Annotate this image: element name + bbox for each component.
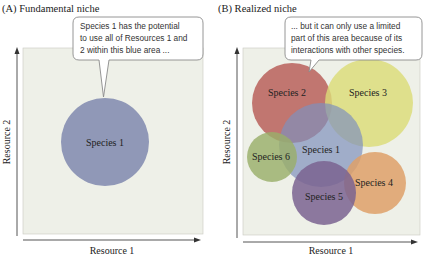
x-axis-arrow-icon [411, 240, 418, 245]
panel-a-y-axis [15, 47, 20, 236]
niche-figure: (A) Fundamental niche Species 1 Species … [0, 0, 424, 256]
panel-b-title: (B) Realized niche [218, 3, 297, 15]
panel-a-y-label: Resource 2 [1, 120, 12, 165]
species-1-label: Species 1 [86, 137, 124, 148]
callout-line-3: interactions with other species. [291, 45, 404, 55]
species-2-label: Species 2 [268, 87, 306, 98]
panel-b-x-label: Resource 1 [309, 245, 354, 256]
callout-line-1: Species 1 has the potential [80, 21, 180, 31]
panel-a: (A) Fundamental niche Species 1 Species … [1, 3, 203, 256]
panel-b-y-axis [235, 47, 240, 238]
species-6-label: Species 6 [252, 151, 290, 162]
panel-b-x-axis [243, 240, 418, 245]
species-3-label: Species 3 [349, 87, 387, 98]
callout-line-2: part of this area because of its [291, 33, 402, 43]
callout-line-2: to use all of Resources 1 and [80, 33, 188, 43]
panel-a-title: (A) Fundamental niche [2, 3, 100, 15]
panel-a-species-1: Species 1 [61, 98, 149, 186]
panel-a-x-axis [23, 238, 201, 243]
species-4-label: Species 4 [355, 177, 393, 188]
species-5-label: Species 5 [305, 191, 343, 202]
callout-line-3: 2 within this blue area ... [80, 45, 169, 55]
y-axis-arrow-icon [15, 47, 20, 54]
x-axis-arrow-icon [194, 238, 201, 243]
y-axis-arrow-icon [235, 47, 240, 54]
panel-a-x-label: Resource 1 [90, 245, 135, 256]
panel-b: (B) Realized niche Species 2 Species 3 S… [218, 3, 422, 256]
callout-line-1: ... but it can only use a limited [291, 21, 401, 31]
panel-b-y-label: Resource 2 [221, 120, 232, 165]
species-1-label: Species 1 [302, 144, 340, 155]
